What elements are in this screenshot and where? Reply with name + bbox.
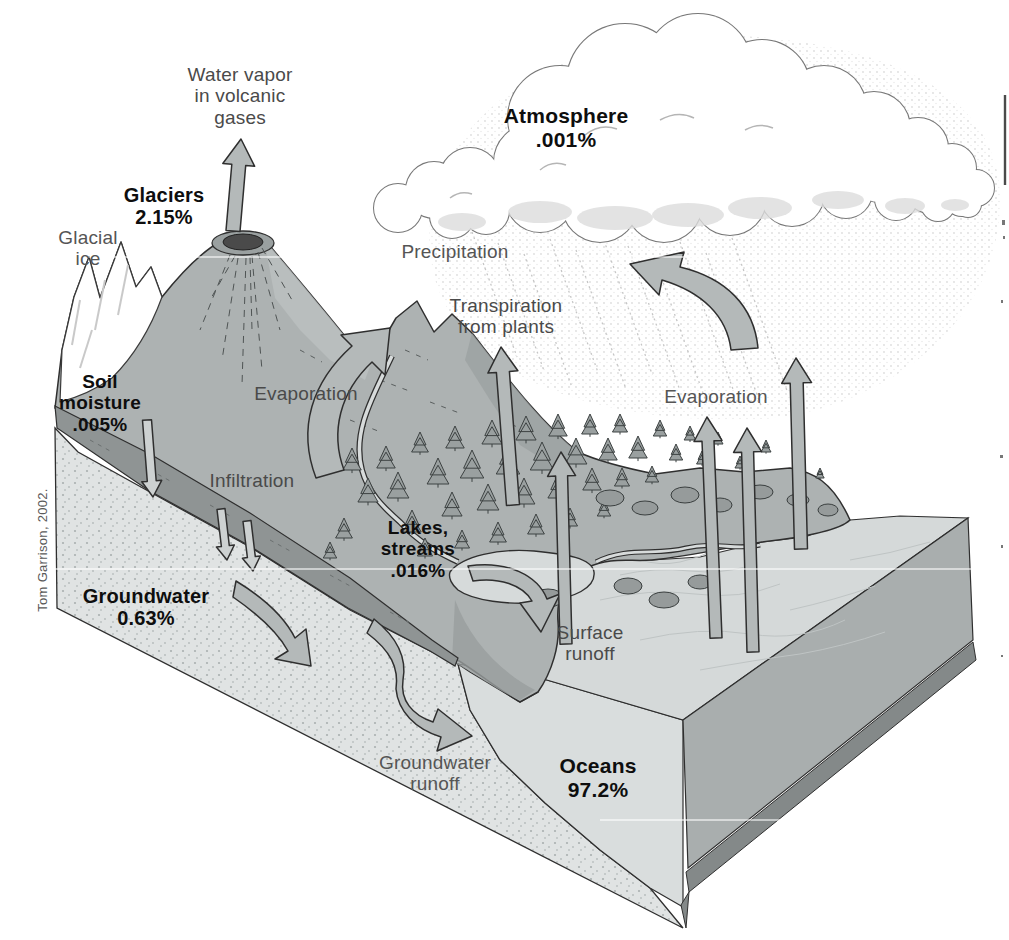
bush [671,487,699,503]
cloud-shading [577,206,653,230]
tree [599,438,617,463]
bush [818,504,838,516]
tree [549,414,567,439]
tree [816,468,824,479]
bush [632,501,658,515]
tree [612,414,627,435]
cloud-shading [728,197,792,219]
cloud [374,14,994,242]
water-cycle-figure: Water vapor in volcanic gases Glaciers 2… [0,0,1009,940]
cloud-shading [812,191,864,209]
volcanic-gases-arrow [223,139,255,232]
cloud-shading [941,199,969,211]
tree [684,426,696,442]
cloud-shading [438,213,486,231]
tree [669,444,682,462]
bush [614,578,642,594]
tree [582,414,599,437]
page-edge-specks [1000,220,1005,657]
tree [761,440,771,454]
cloud-shading [652,203,724,227]
tree [645,466,658,484]
crater [223,234,263,250]
cloud-shading [508,201,572,223]
tree [629,436,647,461]
bush [596,490,624,506]
water-cycle-illustration [0,0,1009,940]
cloud-shading [885,198,925,214]
bush [649,592,679,608]
tree [653,420,666,438]
